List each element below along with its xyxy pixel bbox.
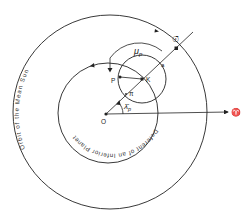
- label-mean-longitude: λ̄p: [123, 102, 131, 112]
- label-o: O: [101, 118, 106, 125]
- diagram-canvas: O K P a π ☉̄ μp λ̄p ♈ Orbit of the Mean …: [0, 0, 251, 217]
- outer-orbit-direction-arrow: [155, 29, 160, 33]
- label-vernal-point: ♈: [231, 107, 241, 117]
- radius-k-p: [120, 77, 142, 79]
- label-apogee: a: [161, 62, 165, 68]
- label-mean-sun-orbit: Orbit of the Mean Sun: [13, 67, 30, 151]
- label-mean-sun: ☉̄: [172, 35, 179, 44]
- label-deferent: Deferent of an Inferior Planet: [70, 128, 160, 159]
- label-k: K: [146, 76, 151, 83]
- point-mean-sun: [175, 47, 179, 51]
- point-k: [141, 78, 144, 81]
- anomaly-arc-arrowhead: [108, 68, 113, 73]
- point-perigee: [125, 93, 127, 95]
- mean-sun-orbit: [13, 15, 207, 209]
- label-anomaly: μp: [133, 46, 143, 57]
- deferent-direction-arrow: [90, 63, 95, 68]
- point-p: [119, 76, 122, 79]
- point-o: [104, 112, 107, 115]
- label-p: P: [111, 77, 115, 84]
- vernal-direction-line: [106, 112, 228, 114]
- label-perigee: π: [129, 90, 134, 97]
